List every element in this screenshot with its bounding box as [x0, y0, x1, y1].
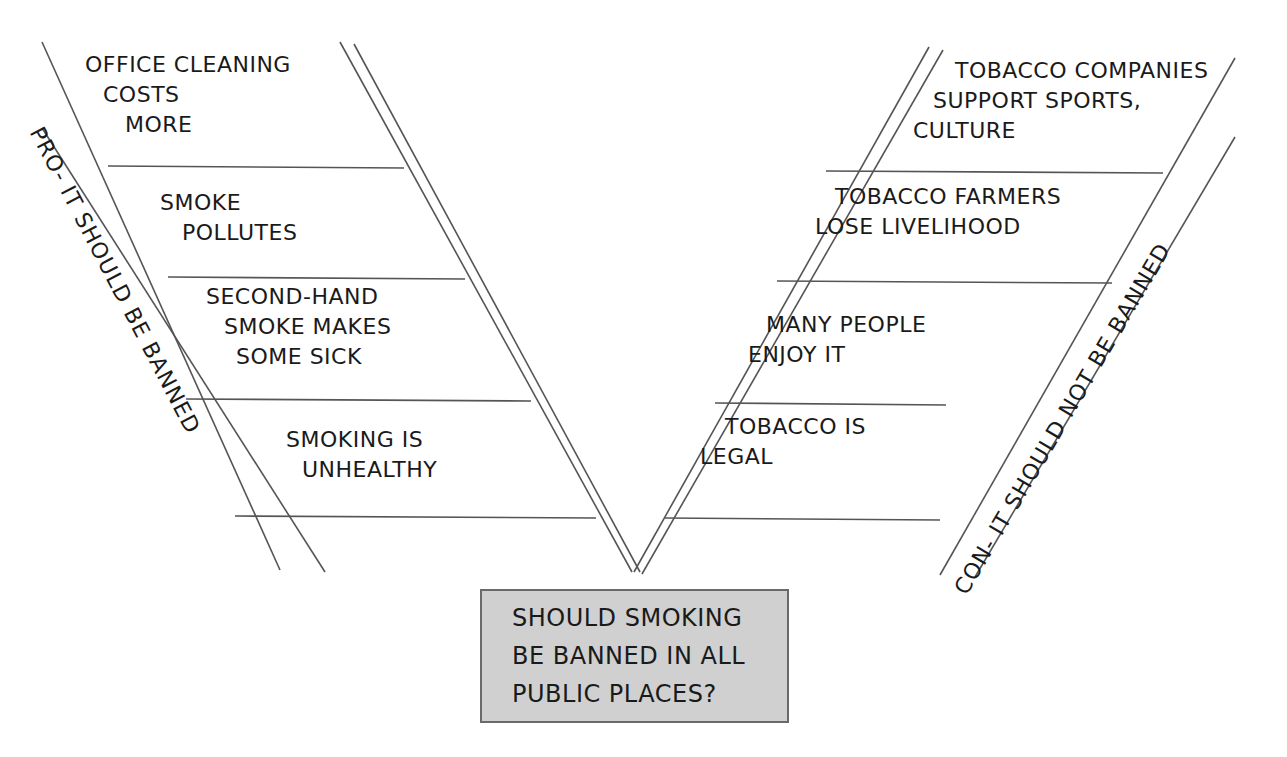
- pro-rung-1: [108, 166, 404, 168]
- con-rung-2: [777, 281, 1112, 283]
- pro-reason-3: SECOND-HAND SMOKE MAKES SOME SICK: [206, 282, 391, 372]
- question-line-1: SHOULD SMOKING: [512, 599, 787, 637]
- pro-rung-2: [168, 277, 465, 279]
- con-reason-4: TOBACCO IS LEGAL: [700, 412, 866, 472]
- con-reason-2: TOBACCO FARMERS LOSE LIVELIHOOD: [815, 182, 1061, 242]
- pro-reason-2: SMOKE POLLUTES: [160, 188, 297, 248]
- con-reason-3: MANY PEOPLE ENJOY IT: [748, 310, 926, 370]
- central-question-box: SHOULD SMOKING BE BANNED IN ALL PUBLIC P…: [480, 589, 789, 723]
- pro-reason-1: OFFICE CLEANING COSTS MORE: [85, 50, 291, 140]
- pro-rung-3: [186, 399, 531, 401]
- con-rung-1: [826, 171, 1163, 173]
- pro-arm-line-b: [354, 44, 640, 572]
- con-reason-1: TOBACCO COMPANIES SUPPORT SPORTS, CULTUR…: [893, 56, 1208, 146]
- question-line-2: BE BANNED IN ALL: [512, 637, 787, 675]
- pro-reason-4: SMOKING IS UNHEALTHY: [286, 425, 437, 485]
- pro-rung-4: [235, 516, 596, 518]
- question-line-3: PUBLIC PLACES?: [512, 675, 787, 713]
- con-rung-3: [715, 403, 946, 405]
- con-rung-4: [665, 518, 940, 520]
